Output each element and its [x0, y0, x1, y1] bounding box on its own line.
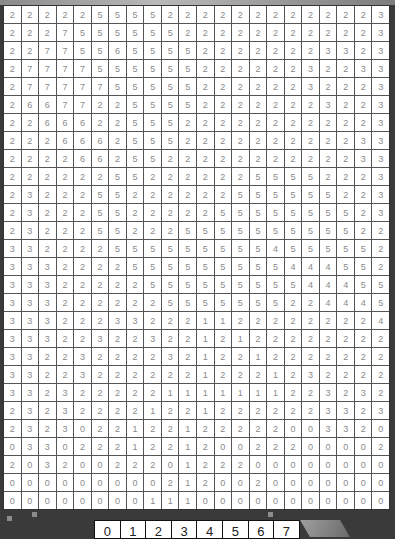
grid-cell[interactable]: 2	[355, 24, 372, 41]
grid-cell[interactable]: 5	[109, 6, 126, 23]
grid-cell[interactable]: 2	[22, 42, 39, 59]
grid-cell[interactable]: 2	[215, 366, 232, 383]
grid-cell[interactable]: 3	[372, 114, 389, 131]
grid-cell[interactable]: 2	[337, 114, 354, 131]
grid-cell[interactable]: 3	[4, 330, 21, 347]
grid-cell[interactable]: 0	[74, 492, 91, 509]
grid-cell[interactable]: 2	[197, 150, 214, 167]
grid-cell[interactable]: 5	[109, 78, 126, 95]
grid-cell[interactable]: 2	[355, 222, 372, 239]
grid-cell[interactable]: 3	[4, 312, 21, 329]
grid-cell[interactable]: 2	[337, 132, 354, 149]
grid-cell[interactable]: 3	[372, 42, 389, 59]
grid-cell[interactable]: 7	[74, 60, 91, 77]
grid-cell[interactable]: 5	[162, 294, 179, 311]
grid-cell[interactable]: 2	[144, 420, 161, 437]
grid-cell[interactable]: 2	[215, 186, 232, 203]
grid-cell[interactable]: 2	[232, 114, 249, 131]
grid-cell[interactable]: 5	[179, 258, 196, 275]
grid-cell[interactable]: 3	[39, 258, 56, 275]
grid-cell[interactable]: 2	[179, 186, 196, 203]
grid-cell[interactable]: 2	[355, 78, 372, 95]
grid-cell[interactable]: 2	[92, 294, 109, 311]
grid-cell[interactable]: 2	[74, 312, 91, 329]
grid-cell[interactable]: 2	[302, 6, 319, 23]
grid-cell[interactable]: 3	[22, 258, 39, 275]
grid-cell[interactable]: 5	[215, 294, 232, 311]
grid-cell[interactable]: 2	[302, 348, 319, 365]
palette-number-4[interactable]: 4	[197, 521, 222, 538]
grid-cell[interactable]: 5	[74, 24, 91, 41]
grid-cell[interactable]: 2	[127, 276, 144, 293]
grid-cell[interactable]: 2	[109, 276, 126, 293]
grid-cell[interactable]: 2	[197, 474, 214, 491]
grid-cell[interactable]: 2	[372, 348, 389, 365]
grid-cell[interactable]: 2	[285, 78, 302, 95]
grid-cell[interactable]: 1	[179, 456, 196, 473]
grid-cell[interactable]: 0	[250, 492, 267, 509]
grid-cell[interactable]: 2	[4, 78, 21, 95]
grid-cell[interactable]: 2	[337, 96, 354, 113]
grid-cell[interactable]: 2	[109, 132, 126, 149]
grid-cell[interactable]: 2	[250, 312, 267, 329]
grid-cell[interactable]: 2	[92, 276, 109, 293]
grid-cell[interactable]: 3	[372, 60, 389, 77]
grid-cell[interactable]: 5	[179, 78, 196, 95]
grid-cell[interactable]: 5	[232, 294, 249, 311]
grid-cell[interactable]: 5	[250, 186, 267, 203]
grid-cell[interactable]: 2	[4, 96, 21, 113]
grid-cell[interactable]: 2	[92, 420, 109, 437]
grid-cell[interactable]: 2	[302, 96, 319, 113]
grid-cell[interactable]: 2	[39, 240, 56, 257]
grid-cell[interactable]: 5	[127, 240, 144, 257]
grid-cell[interactable]: 5	[179, 96, 196, 113]
grid-cell[interactable]: 2	[372, 258, 389, 275]
grid-cell[interactable]: 0	[57, 438, 74, 455]
grid-cell[interactable]: 2	[179, 366, 196, 383]
grid-cell[interactable]: 2	[92, 96, 109, 113]
grid-cell[interactable]: 2	[39, 402, 56, 419]
grid-cell[interactable]: 3	[4, 384, 21, 401]
grid-cell[interactable]: 2	[337, 312, 354, 329]
grid-cell[interactable]: 3	[22, 384, 39, 401]
grid-cell[interactable]: 2	[197, 60, 214, 77]
grid-cell[interactable]: 2	[109, 384, 126, 401]
grid-cell[interactable]: 6	[74, 150, 91, 167]
grid-cell[interactable]: 5	[162, 96, 179, 113]
grid-cell[interactable]: 5	[127, 96, 144, 113]
grid-cell[interactable]: 5	[267, 276, 284, 293]
grid-cell[interactable]: 7	[22, 60, 39, 77]
grid-cell[interactable]: 3	[22, 402, 39, 419]
grid-cell[interactable]: 2	[179, 402, 196, 419]
grid-cell[interactable]: 2	[232, 96, 249, 113]
grid-cell[interactable]: 5	[144, 276, 161, 293]
grid-cell[interactable]: 3	[22, 348, 39, 365]
grid-cell[interactable]: 7	[92, 78, 109, 95]
grid-cell[interactable]: 3	[57, 420, 74, 437]
grid-cell[interactable]: 2	[127, 348, 144, 365]
grid-cell[interactable]: 5	[337, 240, 354, 257]
grid-cell[interactable]: 2	[372, 438, 389, 455]
grid-cell[interactable]: 3	[320, 42, 337, 59]
grid-cell[interactable]: 2	[337, 366, 354, 383]
grid-cell[interactable]: 5	[162, 240, 179, 257]
grid-cell[interactable]: 2	[337, 384, 354, 401]
grid-cell[interactable]: 2	[74, 204, 91, 221]
grid-cell[interactable]: 0	[22, 474, 39, 491]
grid-cell[interactable]: 5	[372, 276, 389, 293]
grid-cell[interactable]: 4	[320, 276, 337, 293]
grid-cell[interactable]: 0	[127, 492, 144, 509]
grid-cell[interactable]: 5	[162, 42, 179, 59]
grid-cell[interactable]: 2	[179, 6, 196, 23]
grid-cell[interactable]: 2	[355, 204, 372, 221]
grid-cell[interactable]: 2	[57, 204, 74, 221]
grid-cell[interactable]: 2	[302, 132, 319, 149]
grid-cell[interactable]: 2	[355, 186, 372, 203]
grid-cell[interactable]: 2	[285, 132, 302, 149]
palette-number-7[interactable]: 7	[274, 521, 299, 538]
grid-cell[interactable]: 3	[127, 312, 144, 329]
grid-cell[interactable]: 3	[355, 60, 372, 77]
grid-cell[interactable]: 2	[22, 132, 39, 149]
grid-cell[interactable]: 3	[39, 294, 56, 311]
grid-cell[interactable]: 5	[92, 42, 109, 59]
